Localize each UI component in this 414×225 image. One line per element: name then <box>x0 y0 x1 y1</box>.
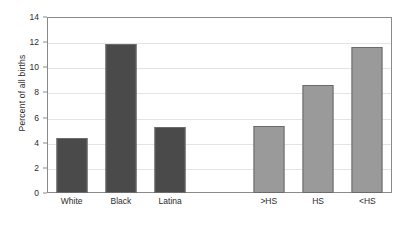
y-tick-label: 2 <box>34 163 39 173</box>
bar-slot <box>96 17 145 193</box>
y-axis-tick-labels: 02468101214 <box>0 0 47 211</box>
x-tick-label: <HS <box>359 196 376 206</box>
x-tick-label: HS <box>312 196 324 206</box>
bar[interactable] <box>105 44 136 193</box>
y-tick-label: 4 <box>34 138 39 148</box>
bar-slot <box>343 17 392 193</box>
y-tick-label: 6 <box>34 113 39 123</box>
bar-series <box>47 17 392 193</box>
bar-slot <box>244 17 293 193</box>
bar-slot <box>293 17 342 193</box>
bar-slot <box>146 17 195 193</box>
x-tick-label: White <box>61 196 83 206</box>
y-tick-label: 12 <box>30 37 39 47</box>
bar-chart: Percent of all births 02468101214 WhiteB… <box>0 0 414 225</box>
bar[interactable] <box>352 47 383 193</box>
x-tick-label: Black <box>111 196 132 206</box>
bar-slot <box>47 17 96 193</box>
y-tick-label: 0 <box>34 188 39 198</box>
x-tick-label: Latina <box>159 196 182 206</box>
bar[interactable] <box>253 126 284 193</box>
bar[interactable] <box>303 85 334 193</box>
x-axis-tick-labels: WhiteBlackLatina>HSHS<HS <box>47 196 392 216</box>
bar[interactable] <box>155 127 186 193</box>
bar[interactable] <box>56 138 87 193</box>
x-tick-label: >HS <box>260 196 277 206</box>
y-tick-label: 8 <box>34 87 39 97</box>
y-tick-label: 10 <box>30 62 39 72</box>
y-tick-label: 14 <box>30 12 39 22</box>
